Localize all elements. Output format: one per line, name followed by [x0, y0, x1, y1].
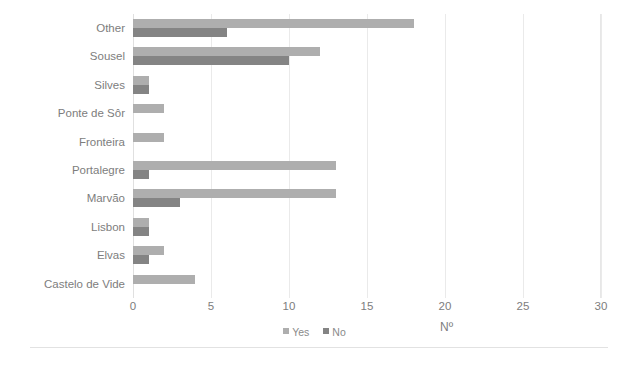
bar-group: Marvão [133, 184, 601, 212]
category-label: Lisbon [91, 213, 125, 241]
x-axis-tick-labels: 051015202530 [133, 300, 601, 316]
x-tick-label: 0 [130, 300, 136, 312]
x-tick-label: 5 [208, 300, 214, 312]
legend-swatch-icon [323, 328, 329, 334]
bar-yes [133, 218, 149, 227]
legend-label: Yes [292, 326, 309, 338]
x-tick-label: 10 [283, 300, 296, 312]
legend-label: No [332, 326, 345, 338]
plot-area: OtherSouselSilvesPonte de SôrFronteiraPo… [133, 14, 601, 298]
bar-yes [133, 161, 336, 170]
legend-item-no[interactable]: No [323, 325, 345, 338]
gridline-30 [601, 14, 602, 298]
category-label: Castelo de Vide [44, 270, 125, 298]
bar-yes [133, 19, 414, 28]
bar-no [133, 227, 149, 236]
legend-item-yes[interactable]: Yes [283, 325, 309, 338]
bar-group: Lisbon [133, 213, 601, 241]
bar-yes [133, 189, 336, 198]
category-label: Other [96, 14, 125, 42]
bar-no [133, 170, 149, 179]
bar-group: Other [133, 14, 601, 42]
category-label: Portalegre [72, 156, 125, 184]
category-label: Silves [94, 71, 125, 99]
bar-yes [133, 133, 164, 142]
bar-group: Portalegre [133, 156, 601, 184]
legend-swatch-icon [283, 328, 289, 334]
bar-yes [133, 104, 164, 113]
bar-yes [133, 275, 195, 284]
category-label: Marvão [87, 184, 125, 212]
figure-bottom-rule [30, 347, 608, 348]
bar-no [133, 198, 180, 207]
category-label: Elvas [97, 241, 125, 269]
bar-yes [133, 47, 320, 56]
bar-group: Ponte de Sôr [133, 99, 601, 127]
x-tick-label: 15 [361, 300, 374, 312]
bar-no [133, 56, 289, 65]
bar-group: Castelo de Vide [133, 270, 601, 298]
bar-group: Silves [133, 71, 601, 99]
bar-no [133, 255, 149, 264]
category-label: Sousel [90, 42, 125, 70]
x-tick-label: 30 [595, 300, 608, 312]
category-label: Fronteira [79, 128, 125, 156]
bar-yes [133, 76, 149, 85]
bar-no [133, 85, 149, 94]
bar-yes [133, 246, 164, 255]
x-axis-title: Nº [440, 320, 453, 334]
horizontal-bar-chart: OtherSouselSilvesPonte de SôrFronteiraPo… [0, 0, 629, 366]
bar-no [133, 28, 227, 37]
bar-group: Sousel [133, 42, 601, 70]
x-tick-label: 20 [439, 300, 452, 312]
category-label: Ponte de Sôr [58, 99, 125, 127]
bar-group: Fronteira [133, 128, 601, 156]
bar-group: Elvas [133, 241, 601, 269]
chart-legend: YesNo [0, 322, 629, 338]
x-tick-label: 25 [517, 300, 530, 312]
